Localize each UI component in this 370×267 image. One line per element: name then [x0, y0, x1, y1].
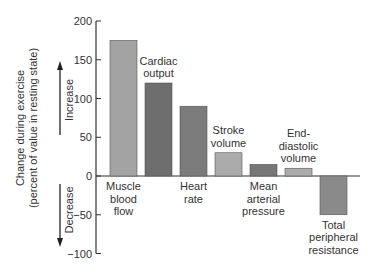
category-label: End-diastolicvolume — [279, 127, 319, 164]
y-axis-label: Change during exercise(percent of value … — [14, 48, 39, 208]
y-tick-label: 50 — [80, 131, 92, 143]
direction-arrows: IncreaseDecrease — [57, 61, 75, 247]
increase-label: Increase — [63, 79, 75, 121]
decrease-label: Decrease — [63, 186, 75, 233]
category-label: Strokevolume — [211, 124, 246, 149]
category-label: Meanarterialpressure — [242, 180, 285, 217]
bar-cardiac-output — [145, 83, 172, 176]
bar-total-peripheral-resistance — [320, 176, 347, 215]
arrow-up-icon — [57, 61, 63, 70]
y-tick-label: −50 — [73, 209, 92, 221]
bar-muscle-blood-flow — [110, 40, 137, 176]
category-label: Totalperipheralresistance — [308, 219, 358, 256]
category-label: Cardiacoutput — [140, 55, 178, 80]
bar-end-diastolic-volume — [285, 168, 312, 176]
category-label: Musclebloodflow — [106, 180, 141, 217]
arrow-down-icon — [57, 238, 63, 247]
bar-chart: 200150100500−50−100 MusclebloodflowCardi… — [0, 0, 370, 267]
bar-mean-arterial-pressure — [250, 164, 277, 176]
y-tick-label: 150 — [74, 54, 92, 66]
y-tick-label: 100 — [74, 93, 92, 105]
y-axis-title: Change during exercise(percent of value … — [14, 48, 39, 208]
bar-heart-rate — [180, 106, 207, 176]
category-label: Heartrate — [180, 180, 207, 205]
y-tick-label: 0 — [86, 170, 92, 182]
y-tick-label: 200 — [74, 15, 92, 27]
y-tick-label: −100 — [67, 248, 92, 260]
bar-stroke-volume — [215, 153, 242, 176]
